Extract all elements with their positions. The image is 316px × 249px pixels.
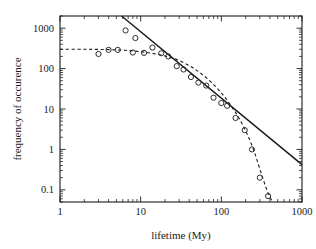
data-point-marker bbox=[150, 45, 155, 50]
x-axis-tick-labels: 1101001000 bbox=[57, 206, 312, 217]
data-point-marker bbox=[96, 51, 101, 56]
power-law-fit-line bbox=[122, 16, 302, 165]
data-point-marker bbox=[141, 50, 146, 55]
y-axis-tick-labels: 0.11101001000 bbox=[33, 23, 54, 196]
x-axis-minor-ticks bbox=[84, 16, 298, 202]
data-point-marker bbox=[174, 64, 179, 69]
y-tick-label: 1000 bbox=[33, 23, 54, 34]
data-point-marker bbox=[130, 50, 135, 55]
y-axis-minor-ticks bbox=[60, 16, 302, 202]
data-point-marker bbox=[188, 74, 193, 79]
y-tick-label: 100 bbox=[38, 63, 54, 74]
x-tick-label: 1000 bbox=[292, 206, 313, 217]
data-point-marker bbox=[133, 35, 138, 40]
y-tick-label: 0.1 bbox=[41, 184, 54, 195]
data-point-marker bbox=[257, 175, 262, 180]
data-point-marker bbox=[196, 80, 201, 85]
x-axis-title: lifetime (My) bbox=[151, 229, 211, 242]
y-axis-title: frequency of occurence bbox=[11, 57, 23, 160]
x-tick-label: 10 bbox=[135, 206, 146, 217]
y-tick-label: 1 bbox=[49, 144, 54, 155]
y-tick-label: 10 bbox=[44, 104, 55, 115]
plot-frame bbox=[60, 16, 302, 202]
data-point-marker bbox=[211, 95, 216, 100]
x-axis-major-ticks bbox=[60, 16, 302, 202]
figure-container: 1101001000 0.11101001000 lifetime (My) f… bbox=[0, 0, 316, 249]
data-point-marker bbox=[219, 100, 224, 105]
data-point-marker bbox=[233, 115, 238, 120]
data-point-group bbox=[96, 28, 271, 199]
log-log-scatter-chart: 1101001000 0.11101001000 lifetime (My) f… bbox=[0, 0, 316, 249]
data-point-marker bbox=[225, 103, 230, 108]
x-tick-label: 1 bbox=[57, 206, 62, 217]
exponential-cutoff-fit-curve bbox=[60, 49, 272, 200]
data-point-marker bbox=[123, 28, 128, 33]
data-point-marker bbox=[266, 193, 271, 198]
x-tick-label: 100 bbox=[213, 206, 229, 217]
